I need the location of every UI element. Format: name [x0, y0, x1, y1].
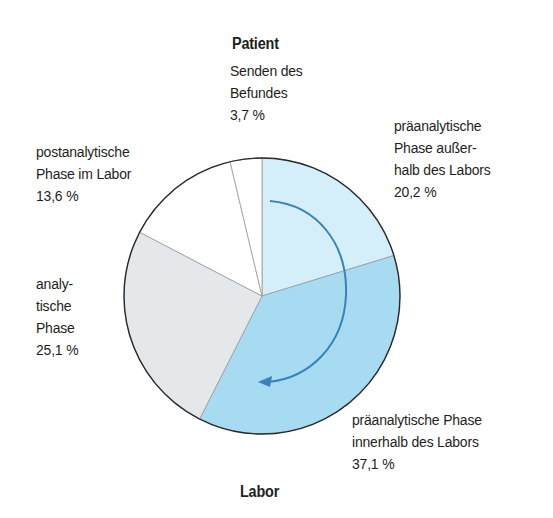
label-postanalytisch: postanalytische Phase im Labor 13,6 % [36, 141, 131, 207]
labor-label: Labor [240, 481, 279, 503]
label-line: präanalytische [394, 115, 491, 137]
label-value: 20,2 % [394, 181, 491, 203]
label-line: tische [36, 295, 78, 317]
label-line: postanalytische [36, 141, 131, 163]
label-analytisch: analy- tische Phase 25,1 % [36, 273, 78, 361]
label-line: Phase im Labor [36, 163, 131, 185]
label-line: Phase außer- [394, 137, 491, 159]
label-praeanalytisch-ausserhalb: präanalytische Phase außer- halb des Lab… [394, 115, 491, 203]
label-line: Befundes [230, 82, 303, 104]
label-value: 3,7 % [230, 104, 303, 126]
label-line: innerhalb des Labors [352, 431, 482, 453]
label-value: 13,6 % [36, 185, 131, 207]
label-line: analy- [36, 273, 78, 295]
label-line: halb des Labors [394, 159, 491, 181]
label-line: Senden des [230, 60, 303, 82]
label-senden-des-befundes: Senden des Befundes 3,7 % [230, 60, 303, 126]
patient-label: Patient [232, 33, 279, 55]
label-line: präanalytische Phase [352, 409, 482, 431]
label-line: Phase [36, 317, 78, 339]
label-value: 37,1 % [352, 453, 482, 475]
pie-slices [124, 158, 400, 434]
label-praeanalytisch-innerhalb: präanalytische Phase innerhalb des Labor… [352, 409, 482, 475]
label-value: 25,1 % [36, 339, 78, 361]
